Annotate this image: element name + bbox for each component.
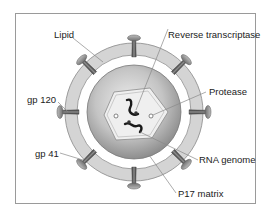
protease-dot-2 [149, 114, 153, 118]
gp120-cap [128, 35, 141, 41]
gp41-stem [132, 40, 136, 57]
label-reverse-transcriptase: Reverse transcriptase [168, 29, 260, 40]
reverse-transcriptase-dot-1 [134, 111, 138, 115]
gp41-stem [132, 167, 136, 184]
label-gp41: gp 41 [35, 148, 59, 159]
label-gp120: gp 120 [27, 94, 56, 105]
gp120-cap [205, 106, 211, 119]
label-p17-matrix: P17 matrix [178, 188, 224, 199]
label-rna-genome: RNA genome [199, 154, 256, 165]
protease-dot-1 [114, 114, 118, 118]
gp120-cap [128, 183, 141, 189]
label-protease: Protease [209, 86, 247, 97]
hiv-virion-diagram: Lipid Reverse transcriptase gp 120 Prote… [0, 0, 269, 220]
label-lipid: Lipid [54, 29, 74, 40]
gp41-stem [189, 110, 206, 114]
reverse-transcriptase-dot-2 [127, 120, 131, 124]
gp120-cap [57, 106, 63, 119]
gp41-stem [62, 110, 79, 114]
